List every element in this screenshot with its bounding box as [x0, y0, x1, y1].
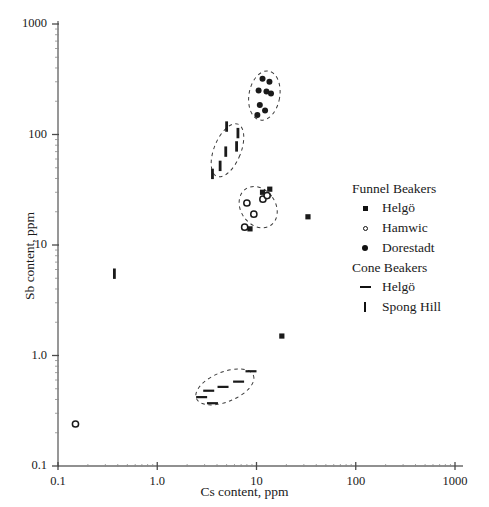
legend-item-dorestadt[interactable]: Dorestadt: [352, 238, 489, 258]
funnel-beakers-dorestadt-point: [254, 112, 260, 118]
funnel-beakers-hamwic-point: [244, 200, 250, 206]
y-tick-label: 0.1: [0, 458, 47, 473]
legend-item-label: Spong Hill: [378, 299, 441, 315]
legend-item-label: Hamwic: [378, 220, 428, 236]
funnel-beakers-dorestadt-point: [262, 107, 268, 113]
cone-beakers-helg-point: [207, 402, 218, 404]
legend-group-title: Funnel Beakers: [352, 181, 489, 197]
funnel-beakers-hamwic-point: [72, 421, 78, 427]
funnel-beakers-dorestadt-point: [257, 102, 263, 108]
y-tick-label: 100: [0, 127, 47, 142]
funnel-beakers-dorestadt-point: [260, 76, 266, 82]
cone-beakers-helg-point: [218, 386, 229, 388]
cone-beakers-helg-point: [203, 390, 214, 392]
y-tick-label: 1000: [0, 16, 47, 31]
funnel-beakers-helg-point: [267, 187, 272, 192]
funnel-beakers-helg-point: [305, 214, 310, 219]
cone-beakers-spong-hill-point: [237, 128, 240, 138]
vertical-bar-icon: [352, 302, 378, 312]
funnel-beakers-hamwic-point: [242, 224, 248, 230]
cone-beakers-spong-hill-point: [224, 146, 227, 156]
filled-square-icon: [352, 206, 378, 211]
cone-beakers-spong-hill-point: [219, 161, 222, 171]
y-axis-label: Sb content, ppm: [22, 212, 38, 300]
hamwic-cluster: [231, 179, 285, 235]
legend-group-cone-beakers: Cone Beakers Helgö Spong Hill: [352, 260, 489, 317]
funnel-beakers-hamwic-point: [251, 211, 257, 217]
scatter-plot-figure: Cs content, ppm Sb content, ppm 0.11.010…: [0, 0, 489, 507]
horizontal-dash-icon: [352, 286, 378, 288]
legend-item-hamwic[interactable]: Hamwic: [352, 218, 489, 238]
funnel-beakers-hamwic-point: [264, 192, 270, 198]
funnel-beakers-dorestadt-point: [268, 90, 274, 96]
cone-beakers-helg-point: [233, 381, 244, 383]
filled-circle-icon: [352, 245, 378, 251]
legend-item-helgo-funnel[interactable]: Helgö: [352, 198, 489, 218]
x-tick-label: 100: [316, 474, 396, 489]
open-circle-icon: [352, 226, 378, 231]
y-tick-label: 1.0: [0, 348, 47, 363]
legend-group-funnel-beakers: Funnel Beakers Helgö Hamwic Dorestadt: [352, 181, 489, 258]
x-tick-label: 10: [217, 474, 297, 489]
funnel-beakers-dorestadt-point: [256, 88, 262, 94]
x-tick-label: 1000: [415, 474, 489, 489]
cone-beakers-spong-hill-point: [211, 169, 214, 179]
cone-beakers-spong-hill-point: [113, 268, 116, 278]
legend-item-label: Dorestadt: [378, 240, 434, 256]
legend-item-label: Helgö: [378, 279, 415, 295]
x-tick-label: 1.0: [117, 474, 197, 489]
funnel-beakers-dorestadt-point: [266, 79, 272, 85]
cone-beakers-spong-hill-point: [225, 121, 228, 131]
funnel-beakers-helg-point: [279, 333, 284, 338]
legend-item-label: Helgö: [378, 200, 415, 216]
legend-group-title: Cone Beakers: [352, 260, 489, 276]
cone-beakers-spong-hill-point: [235, 141, 238, 151]
legend-item-spong-hill[interactable]: Spong Hill: [352, 297, 489, 317]
legend: Funnel Beakers Helgö Hamwic Dorestadt Co…: [352, 181, 489, 317]
x-tick-label: 0.1: [18, 474, 98, 489]
y-tick-label: 10: [0, 237, 47, 252]
legend-item-helgo-cone[interactable]: Helgö: [352, 277, 489, 297]
cone-beakers-helg-point: [245, 370, 256, 372]
cone-beakers-helg-point: [196, 396, 207, 398]
